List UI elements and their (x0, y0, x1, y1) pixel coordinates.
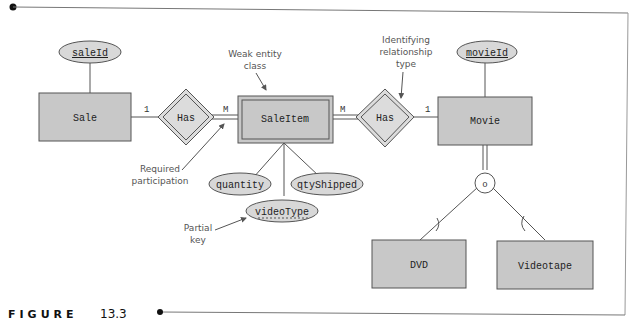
attribute-saleid[interactable]: saleId (59, 41, 121, 63)
svg-text:Partial: Partial (184, 223, 212, 233)
svg-text:Has: Has (376, 113, 394, 124)
svg-text:o: o (482, 180, 487, 190)
card-saleitem-right: M (340, 105, 345, 115)
specialization-circle: o (475, 173, 495, 193)
entity-movie[interactable]: Movie (438, 97, 532, 145)
svg-text:Identifying: Identifying (382, 35, 430, 45)
attribute-movieid[interactable]: movieId (457, 41, 517, 63)
svg-text:key: key (190, 235, 206, 245)
svg-text:movieId: movieId (466, 48, 508, 59)
svg-text:quantity: quantity (216, 180, 264, 191)
relationship-has-sale-saleitem[interactable]: Has (158, 89, 214, 145)
svg-text:saleId: saleId (72, 48, 108, 59)
svg-text:participation: participation (132, 176, 189, 186)
card-movie: 1 (425, 105, 430, 115)
card-saleitem-left: M (223, 105, 228, 115)
svg-text:qtyShipped: qtyShipped (297, 180, 357, 191)
svg-text:relationship: relationship (380, 47, 433, 57)
entity-saleitem[interactable]: SaleItem (238, 96, 333, 143)
attribute-quantity[interactable]: quantity (209, 173, 271, 195)
entity-videotape[interactable]: Videotape (497, 241, 593, 289)
annotation-identifying: Identifying relationship type (380, 35, 433, 98)
svg-text:SaleItem: SaleItem (261, 114, 309, 125)
annotation-partial-key: Partial key (184, 218, 246, 245)
svg-text:videoType: videoType (255, 207, 309, 218)
card-sale: 1 (144, 105, 149, 115)
entity-dvd[interactable]: DVD (372, 240, 466, 288)
svg-text:Movie: Movie (470, 116, 500, 127)
attribute-videotype[interactable]: videoType (246, 200, 318, 222)
svg-text:Sale: Sale (73, 113, 97, 124)
figure-number: 13.3 (100, 307, 127, 321)
figure-label: FIGURE (8, 308, 78, 321)
svg-text:class: class (244, 61, 267, 71)
svg-text:Required: Required (140, 164, 180, 174)
svg-text:type: type (396, 59, 417, 69)
attribute-qtyshipped[interactable]: qtyShipped (291, 173, 363, 195)
svg-text:Weak entity: Weak entity (228, 49, 282, 59)
svg-text:Videotape: Videotape (518, 261, 572, 272)
svg-text:DVD: DVD (410, 260, 428, 271)
annotation-weak-entity: Weak entity class (228, 49, 282, 90)
er-diagram: saleId movieId quantity qtyShipped video… (0, 0, 634, 326)
entity-sale[interactable]: Sale (39, 93, 131, 141)
relationship-has-saleitem-movie[interactable]: Has (356, 89, 414, 147)
svg-text:Has: Has (177, 113, 195, 124)
